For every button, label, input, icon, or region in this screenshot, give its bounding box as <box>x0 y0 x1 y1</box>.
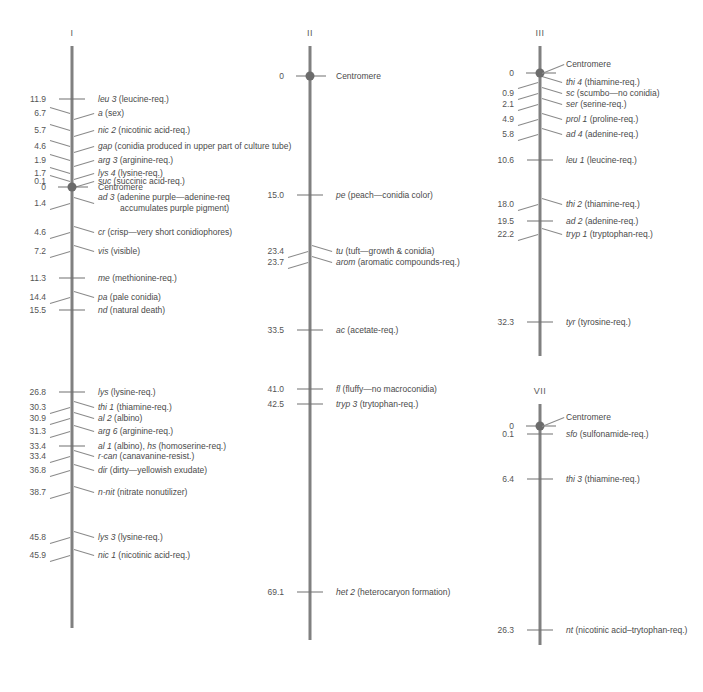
locus-II-tu-leader-right <box>312 245 332 252</box>
locus-I-gap-position: 4.6 <box>0 141 46 151</box>
locus-I-n-nit-leader-right <box>74 486 94 493</box>
centromere-I-label: Centromere <box>98 182 143 192</box>
locus-I-lys3-gene-symbol: lys 3 <box>98 532 115 542</box>
centromere-III-position: 0 <box>454 68 514 78</box>
locus-III-ser-description: (serine-req.) <box>578 99 627 109</box>
locus-III-tyr-description: (tyrosine-req.) <box>575 317 630 327</box>
locus-II-tryp3-position: 42.5 <box>224 399 284 409</box>
locus-II-pe-label: pe (peach—conidia color) <box>336 190 433 201</box>
chromosome-title-II: II <box>307 28 313 38</box>
locus-II-tryp3-gene-symbol: tryp 3 <box>336 399 357 409</box>
locus-III-sc-leader-left <box>518 93 538 100</box>
locus-III-tyr-position: 32.3 <box>454 317 514 327</box>
locus-I-pa-position: 14.4 <box>0 292 46 302</box>
locus-I-nic2-gene-symbol: nic 2 <box>98 125 116 135</box>
locus-I-ad3-leader-right <box>74 197 94 204</box>
locus-III-prol1-gene-symbol: prol 1 <box>566 114 587 124</box>
locus-VII-nt-label: nt (nicotinic acid–trytophan-req.) <box>566 625 687 636</box>
locus-I-dir-leader-right <box>74 464 94 471</box>
locus-II-arom-gene-symbol: arom <box>336 257 355 267</box>
locus-I-nic1-position: 45.9 <box>0 550 46 560</box>
locus-I-suc-leader-left <box>50 175 70 182</box>
locus-I-a-label: a (sex) <box>98 108 124 119</box>
locus-I-nic2-position: 5.7 <box>0 125 46 135</box>
locus-I-thi1-leader-left <box>50 407 70 414</box>
locus-I-n-nit-gene-symbol: n-nit <box>98 487 115 497</box>
locus-II-fl-description: (fluffy—no macroconidia) <box>340 384 437 394</box>
locus-III-ad4-position: 5.8 <box>454 129 514 139</box>
locus-II-pe-tick <box>297 195 323 196</box>
locus-I-lys-label: lys (lysine-req.) <box>98 387 156 398</box>
locus-I-al2-description: (albino) <box>112 413 143 423</box>
locus-I-nic2-label: nic 2 (nicotinic acid-req.) <box>98 125 190 136</box>
locus-I-lys3-position: 45.8 <box>0 532 46 542</box>
chromosome-title-VII: VII <box>534 386 547 396</box>
locus-I-lys3-label: lys 3 (lysine-req.) <box>98 532 163 543</box>
locus-II-het2-tick <box>297 592 323 593</box>
locus-I-thi1-position: 30.3 <box>0 402 46 412</box>
locus-III-prol1-leader-left <box>518 119 538 126</box>
locus-III-ser-position: 2.1 <box>454 99 514 109</box>
locus-III-thi2-leader-left <box>518 204 538 211</box>
locus-III-sc-description: (scumbo—no conidia) <box>575 88 660 98</box>
locus-I-me-tick <box>59 278 85 279</box>
locus-III-ad4-label: ad 4 (adenine-req.) <box>566 129 638 140</box>
locus-II-het2-label: het 2 (heterocaryon formation) <box>336 587 450 598</box>
locus-I-leu3-gene-symbol: leu 3 <box>98 94 116 104</box>
locus-I-nic2-leader-right <box>74 130 94 137</box>
locus-I-nic2-leader-left <box>50 124 70 131</box>
locus-I-lys-description: (lysine-req.) <box>108 387 155 397</box>
locus-I-al2-leader-right <box>74 412 94 419</box>
locus-III-sc-label: sc (scumbo—no conidia) <box>566 88 660 99</box>
locus-III-ad2-description: (adenine-req.) <box>583 216 639 226</box>
locus-I-arg3-position: 1.9 <box>0 155 46 165</box>
locus-VII-thi3-description: (thiamine-req.) <box>582 474 640 484</box>
locus-III-prol1-leader-right <box>542 113 562 120</box>
locus-I-al2-position: 30.9 <box>0 413 46 423</box>
locus-I-al1-description-2: (homoserine-req.) <box>156 441 226 451</box>
locus-I-al1-position: 33.4 <box>0 441 46 451</box>
locus-I-lys3-leader-left <box>50 537 70 544</box>
locus-III-thi4-description: (thiamine-req.) <box>582 77 640 87</box>
locus-I-lys4-leader-left <box>50 167 70 174</box>
locus-III-ser-leader-right <box>542 98 562 105</box>
locus-I-thi1-gene-symbol: thi 1 <box>98 402 114 412</box>
locus-II-arom-label: arom (aromatic compounds-req.) <box>336 257 460 268</box>
locus-I-a-leader-left <box>50 107 70 114</box>
locus-II-fl-label: fl (fluffy—no macroconidia) <box>336 384 437 395</box>
locus-I-a-description: (sex) <box>103 108 124 118</box>
locus-I-gap-label: gap (conidia produced in upper part of c… <box>98 141 291 152</box>
locus-I-thi1-description: (thiamine-req.) <box>114 402 172 412</box>
locus-III-thi2-label: thi 2 (thiamine-req.) <box>566 199 640 210</box>
locus-I-lys3-description: (lysine-req.) <box>115 532 162 542</box>
locus-I-vis-leader-right <box>74 245 94 252</box>
locus-I-arg6-leader-right <box>74 425 94 432</box>
locus-I-al2-label: al 2 (albino) <box>98 413 142 424</box>
locus-I-r-can-leader-right <box>74 450 94 457</box>
locus-I-leu3-tick <box>59 99 85 100</box>
locus-III-ser-leader-left <box>518 104 538 111</box>
locus-II-het2-description: (heterocaryon formation) <box>355 587 450 597</box>
locus-III-tryp1-leader-left <box>518 234 538 241</box>
centromere-I-position: 0 <box>0 182 46 192</box>
locus-I-arg6-description: (arginine-req.) <box>117 426 173 436</box>
locus-I-me-position: 11.3 <box>0 273 46 283</box>
locus-III-sc-gene-symbol: sc <box>566 88 575 98</box>
locus-I-dir-label: dir (dirty—yellowish exudate) <box>98 465 207 476</box>
locus-I-al2-leader-left <box>50 418 70 425</box>
locus-VII-thi3-gene-symbol: thi 3 <box>566 474 582 484</box>
locus-VII-sfo-tick <box>527 434 553 435</box>
locus-I-a-leader-right <box>74 113 94 120</box>
locus-I-pa-leader-left <box>50 297 70 304</box>
locus-I-leu3-description: (leucine-req.) <box>116 94 168 104</box>
locus-II-tryp3-description: (trytophan-req.) <box>357 399 418 409</box>
locus-I-ad3-description: (adenine purple—adenine-req <box>115 192 230 202</box>
locus-III-sc-leader-right <box>542 87 562 94</box>
locus-III-tryp1-gene-symbol: tryp 1 <box>566 229 587 239</box>
locus-I-a-position: 6.7 <box>0 108 46 118</box>
locus-I-arg6-label: arg 6 (arginine-req.) <box>98 426 173 437</box>
locus-III-thi4-leader-right <box>542 76 562 83</box>
locus-I-leu3-position: 11.9 <box>0 94 46 104</box>
locus-III-leu1-tick <box>527 160 553 161</box>
locus-VII-nt-description: (nicotinic acid–trytophan-req.) <box>573 625 687 635</box>
